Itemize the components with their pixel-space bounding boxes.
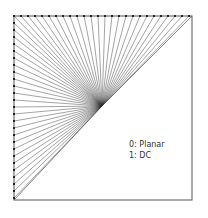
legend-item-dc: 1: DC [129,150,165,161]
legend: 0: Planar 1: DC [129,139,165,161]
fan-diagram [0,0,208,218]
legend-item-planar: 0: Planar [129,139,165,150]
fan-lines [14,16,192,200]
